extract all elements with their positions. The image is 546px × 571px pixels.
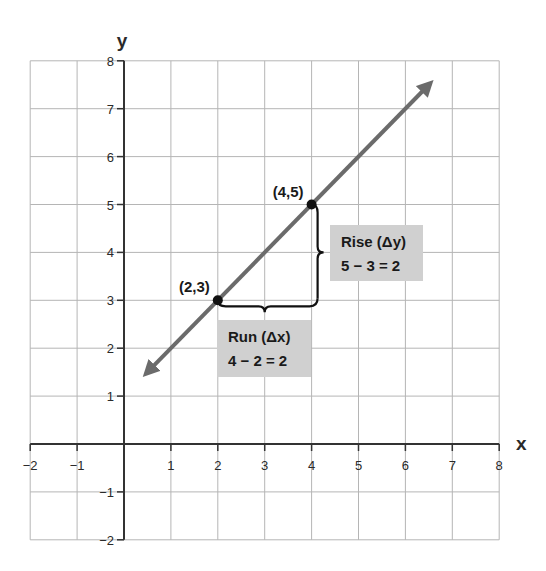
data-points: (2,3)(4,5) [179, 183, 317, 306]
run-equation: 4 − 2 = 2 [228, 352, 287, 369]
x-axis-label: x [516, 433, 527, 454]
x-tick-label: 2 [214, 458, 221, 473]
rise-label: Rise (Δy) [341, 233, 406, 250]
y-tick-label: −1 [99, 485, 114, 500]
x-tick-label: 8 [496, 458, 503, 473]
x-tick-label: 7 [449, 458, 456, 473]
rise-brace [312, 205, 324, 299]
run-label: Run (Δx) [228, 328, 290, 345]
x-tick-label: −2 [23, 458, 38, 473]
data-point-label: (4,5) [273, 183, 304, 200]
y-tick-label: 2 [107, 341, 114, 356]
x-tick-label: 1 [167, 458, 174, 473]
y-axis-label: y [117, 30, 128, 51]
y-tick-label: 1 [107, 389, 114, 404]
x-tick-label: 5 [355, 458, 362, 473]
y-tick-label: 5 [107, 198, 114, 213]
y-tick-label: 7 [107, 102, 114, 117]
x-tick-label: 4 [308, 458, 315, 473]
data-point [307, 200, 317, 210]
y-tick-label: 8 [107, 54, 114, 69]
x-tick-label: −1 [70, 458, 85, 473]
rise-equation: 5 − 3 = 2 [341, 257, 400, 274]
data-point [213, 295, 223, 305]
y-tick-label: 4 [107, 245, 114, 260]
y-tick-label: 3 [107, 293, 114, 308]
y-tick-label: −2 [99, 533, 114, 548]
x-tick-label: 3 [261, 458, 268, 473]
x-tick-label: 6 [402, 458, 409, 473]
y-tick-label: 6 [107, 150, 114, 165]
annotations: Run (Δx)4 − 2 = 2Rise (Δy)5 − 3 = 2 [217, 205, 423, 378]
coordinate-plane-chart: yx −2−11234567887654321−1−2 Run (Δx)4 − … [0, 0, 546, 571]
data-point-label: (2,3) [179, 278, 210, 295]
